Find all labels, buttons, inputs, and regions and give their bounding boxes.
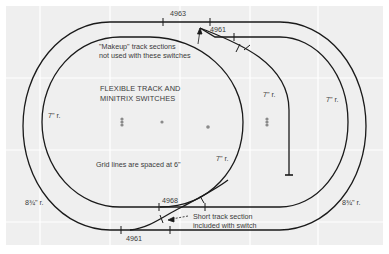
makeup-note-line-1: "Makeup" track sections: [99, 42, 176, 51]
short-track-note-line-2: included with switch: [193, 221, 257, 230]
grid-note: Grid lines are spaced at 6": [96, 160, 180, 169]
panel-background: [6, 6, 383, 245]
label-4963: 4963: [170, 9, 186, 18]
makeup-note-line-2: not used with these switches: [99, 51, 191, 60]
radius-label-right-outer: 8¾" r.: [342, 198, 361, 207]
radius-label-left-outer: 8¾" r.: [25, 198, 44, 207]
label-4968: 4968: [162, 196, 178, 205]
radius-label-right-middle: 7" r.: [326, 95, 339, 104]
radius-label-spur: 7" r.: [263, 90, 276, 99]
title-line-1: FLEXIBLE TRACK AND: [100, 84, 181, 93]
radius-label-left-inner: 7" r.: [48, 111, 61, 120]
label-4961-bottom: 4961: [126, 234, 142, 243]
short-track-note-line-1: Short track section: [193, 212, 253, 221]
radius-label-center-right: 7" r.: [216, 154, 229, 163]
label-4961-top: 4961: [210, 25, 226, 34]
title-line-2: MINITRIX SWITCHES: [100, 94, 175, 103]
